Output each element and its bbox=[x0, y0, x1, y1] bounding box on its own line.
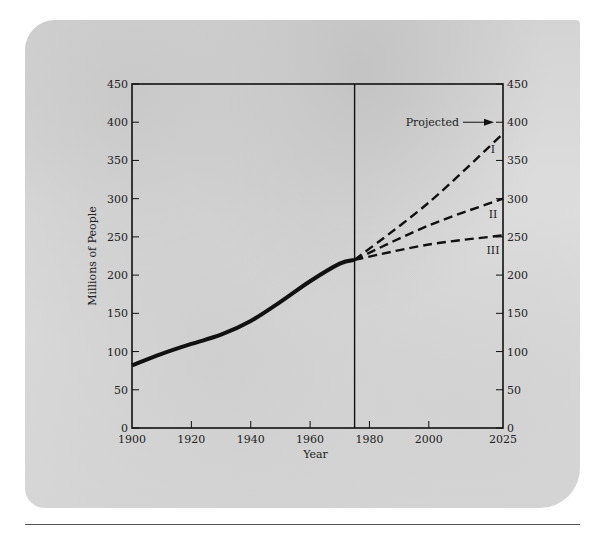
series-label-i: I bbox=[491, 143, 495, 156]
y-tick-label-right: 450 bbox=[507, 78, 528, 91]
series-label-iii: III bbox=[486, 244, 499, 257]
y-tick-label-left: 450 bbox=[107, 78, 128, 91]
y-tick-label-left: 350 bbox=[107, 154, 128, 167]
projected-annotation: Projected bbox=[406, 116, 459, 129]
projection-line-iii bbox=[355, 235, 503, 259]
x-tick-label: 2000 bbox=[415, 433, 443, 446]
y-tick-label-right: 200 bbox=[507, 269, 528, 282]
projection-line-ii bbox=[355, 199, 503, 260]
y-tick-label-left: 200 bbox=[107, 269, 128, 282]
historical-line bbox=[132, 260, 355, 365]
y-tick-label-right: 150 bbox=[507, 307, 528, 320]
x-tick-label: 1940 bbox=[237, 433, 265, 446]
y-tick-label-left: 100 bbox=[107, 346, 128, 359]
y-tick-label-left: 150 bbox=[107, 307, 128, 320]
plot-frame bbox=[132, 84, 503, 428]
y-tick-label-right: 300 bbox=[507, 193, 528, 206]
x-axis-label: Year bbox=[302, 448, 328, 461]
divider-rule bbox=[25, 524, 580, 525]
y-tick-label-right: 50 bbox=[507, 384, 521, 397]
population-chart: 0050501001001501502002002502503003003503… bbox=[0, 0, 602, 535]
x-tick-label: 1900 bbox=[118, 433, 146, 446]
x-tick-label: 2025 bbox=[489, 433, 517, 446]
x-tick-label: 1980 bbox=[355, 433, 383, 446]
projection-line-i bbox=[355, 134, 503, 260]
x-tick-label: 1920 bbox=[177, 433, 205, 446]
series-label-ii: II bbox=[489, 208, 498, 221]
y-tick-label-left: 300 bbox=[107, 193, 128, 206]
y-tick-label-right: 100 bbox=[507, 346, 528, 359]
y-tick-label-right: 400 bbox=[507, 116, 528, 129]
y-axis-label: Millions of People bbox=[86, 206, 99, 305]
y-tick-label-right: 350 bbox=[507, 154, 528, 167]
y-tick-label-left: 250 bbox=[107, 231, 128, 244]
x-tick-label: 1960 bbox=[296, 433, 324, 446]
y-tick-label-right: 250 bbox=[507, 231, 528, 244]
y-tick-label-left: 400 bbox=[107, 116, 128, 129]
arrow-icon bbox=[484, 119, 494, 126]
y-tick-label-left: 50 bbox=[114, 384, 128, 397]
